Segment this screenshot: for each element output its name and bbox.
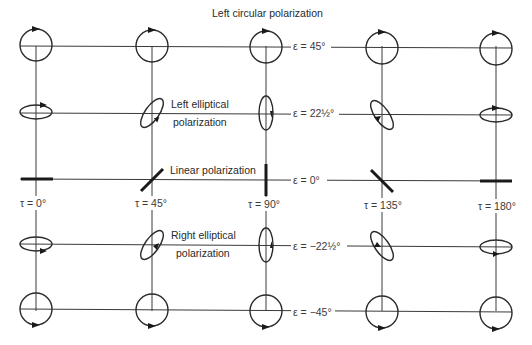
tau-labels: τ = 0° τ = 45° τ = 90° τ = 135° τ = 180° [18, 196, 524, 213]
tau-label-180: τ = 180° [478, 200, 516, 212]
polarization-diagram: Left circular polarization ε = 45° ε = 2… [0, 0, 532, 345]
epsilon-label-minus-22-5: ε = −22½° [293, 240, 340, 252]
epsilon-label-0: ε = 0° [293, 174, 320, 186]
left-elliptical-label-line2: polarization [173, 116, 227, 128]
epsilon-labels: ε = 45° ε = 22½° ε = 0° ε = −22½° ε = −4… [291, 38, 347, 319]
right-elliptical-label: Right elliptical [171, 229, 236, 241]
right-elliptical-label-line2: polarization [176, 247, 230, 259]
left-elliptical-label: Left elliptical [171, 98, 229, 110]
epsilon-label-minus-45: ε = −45° [293, 306, 332, 318]
row-linear [21, 164, 512, 196]
epsilon-label-22-5: ε = 22½° [293, 107, 334, 119]
tau-label-90: τ = 90° [248, 198, 280, 210]
epsilon-label-45: ε = 45° [293, 40, 326, 52]
linear-polarization-label: Linear polarization [170, 164, 256, 176]
annotations: Left elliptical polarization Linear pola… [168, 98, 256, 259]
tau-label-0: τ = 0° [20, 197, 46, 209]
tau-label-135: τ = 135° [364, 199, 402, 211]
tau-label-45: τ = 45° [135, 197, 167, 209]
diagram-title: Left circular polarization [212, 7, 323, 19]
